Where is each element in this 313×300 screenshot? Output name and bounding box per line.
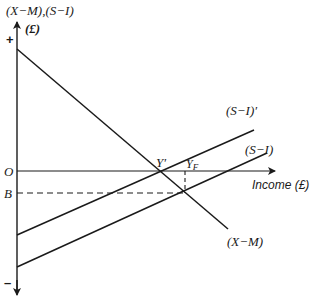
s-i-line [17,153,267,267]
economics-diagram: (X−M),(S−I) (£) + – O B Y′ YF Income (£)… [0,0,313,300]
yf-label: YF [186,158,198,172]
y-prime-label: Y′ [156,156,166,169]
b-label: B [4,187,12,200]
s-i-prime-label: (S−I)′ [226,104,257,117]
x-m-label: (X−M) [227,235,263,248]
minus-sign: – [4,276,11,289]
s-i-prime-line [17,130,254,235]
origin-label: O [4,165,13,178]
plus-sign: + [6,33,14,46]
x-axis-label: Income (£) [252,179,309,191]
y-axis-unit: (£) [25,22,40,35]
y-axis-label: (X−M),(S−I) [6,4,74,17]
s-i-label: (S−I) [245,143,273,156]
yf-sub: F [193,162,199,172]
x-m-line [17,49,228,229]
yf-main: Y [186,157,193,171]
